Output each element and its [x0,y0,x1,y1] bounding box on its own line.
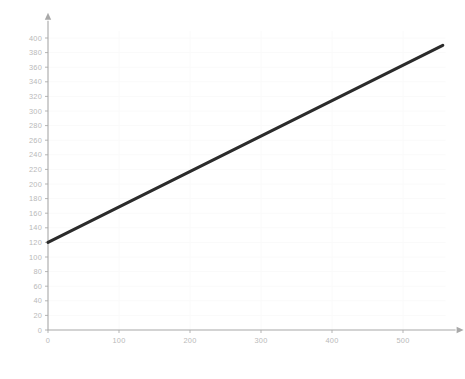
y-tick-label: 300 [29,107,42,116]
y-tick-label: 280 [29,121,42,130]
y-tick-labels: 0204060801001201401601802002202402602803… [29,34,42,335]
line-chart: 0204060801001201401601802002202402602803… [0,0,465,379]
x-tick-label: 300 [255,336,268,345]
x-tick-labels: 0100200300400500 [46,336,410,345]
y-tick-label: 100 [29,253,42,262]
y-tick-label: 220 [29,165,42,174]
y-tick-label: 60 [33,282,42,291]
chart-canvas: 0204060801001201401601802002202402602803… [0,0,465,379]
y-tick-label: 360 [29,63,42,72]
y-tick-label: 180 [29,194,42,203]
x-tick-label: 500 [397,336,410,345]
axes [45,13,464,334]
x-axis-arrow-icon [457,327,464,333]
y-tick-label: 340 [29,77,42,86]
y-tick-label: 200 [29,180,42,189]
x-tick-label: 0 [46,336,50,345]
y-tick-label: 140 [29,223,42,232]
y-tick-label: 40 [33,296,42,305]
y-tick-label: 240 [29,150,42,159]
y-tick-label: 0 [38,326,42,335]
y-tick-label: 120 [29,238,42,247]
y-axis-arrow-icon [45,13,51,20]
y-tick-label: 380 [29,48,42,57]
x-tick-label: 100 [113,336,126,345]
grid-lines [48,31,446,330]
y-tick-label: 20 [33,311,42,320]
x-tick-label: 200 [184,336,197,345]
y-tick-label: 400 [29,34,42,43]
y-tick-label: 260 [29,136,42,145]
y-tick-label: 80 [33,267,42,276]
y-tick-label: 320 [29,92,42,101]
y-tick-label: 160 [29,209,42,218]
x-tick-label: 400 [326,336,339,345]
